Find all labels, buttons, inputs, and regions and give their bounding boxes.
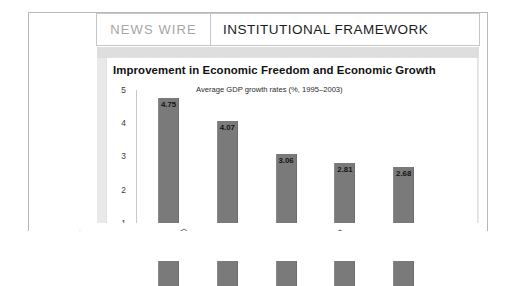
y-axis-tick-3: 3	[110, 151, 126, 161]
news-wire-kicker: NEWS WIRE	[97, 14, 210, 45]
bar-2	[217, 121, 238, 286]
bar-value-label-3: 3.06	[275, 156, 298, 165]
section-header-bar: NEWS WIRE INSTITUTIONAL FRAMEWORK	[96, 13, 480, 46]
section-title: INSTITUTIONAL FRAMEWORK	[211, 14, 479, 45]
y-axis-tick-4: 4	[110, 118, 126, 128]
bar-value-label-4: 2.81	[333, 165, 356, 174]
bar-value-label-5: 2.68	[392, 169, 415, 178]
torn-paper-edge	[28, 215, 488, 261]
bar-value-label-1: 4.75	[157, 100, 180, 109]
y-axis-tick-5: 5	[110, 85, 126, 95]
bar-value-label-2: 4.07	[216, 123, 239, 132]
y-axis-tick-2: 2	[110, 185, 126, 195]
